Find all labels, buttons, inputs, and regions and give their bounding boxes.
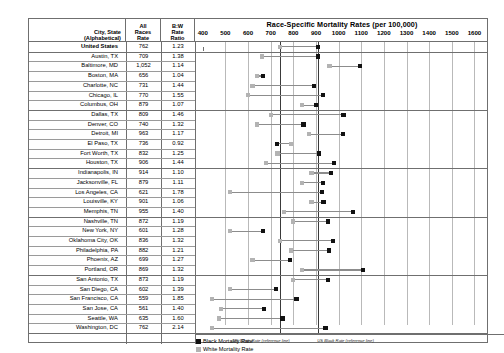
table-row[interactable]: Detroit, MI9631.17: [29, 129, 487, 139]
chart-legend: Black Mortality Rate White Mortality Rat…: [196, 334, 504, 344]
x-tick-label-1400: 1400: [422, 29, 436, 36]
table-row[interactable]: San Jose, CA5611.40: [29, 304, 487, 314]
cell-all-races-rate: 699: [126, 255, 161, 265]
cell-all-races-rate: 914: [126, 168, 161, 178]
table-row[interactable]: Seattle, WA6351.60: [29, 314, 487, 324]
cell-bw-rate-ratio: 1.19: [161, 275, 195, 285]
cell-bw-rate-ratio: 1.38: [161, 52, 195, 62]
table-row[interactable]: San Francisco, CA5591.85: [29, 294, 487, 304]
cell-bw-rate-ratio: 1.11: [161, 178, 195, 188]
table-row[interactable]: San Diego, CA6021.39: [29, 285, 487, 295]
x-tick-label-600: 600: [243, 29, 253, 36]
table-header: City, State (Alphabetical) All Races Rat…: [29, 19, 487, 42]
cell-bw-rate-ratio: 1.46: [161, 110, 195, 120]
cell-all-races-rate: 879: [126, 178, 161, 188]
cell-all-races-rate: 601: [126, 226, 161, 236]
cell-all-races-rate: 635: [126, 314, 161, 324]
cell-bw-rate-ratio: 1.07: [161, 100, 195, 110]
table-row[interactable]: Phoenix, AZ6991.27: [29, 255, 487, 265]
cell-city: San Antonio, TX: [29, 275, 122, 285]
table-row[interactable]: Portland, OR8691.32: [29, 265, 487, 275]
table-row[interactable]: Oklahoma City, OK8361.32: [29, 236, 487, 246]
cell-bw-rate-ratio: 1.17: [161, 129, 195, 139]
column-header-city-line2: (Alphabetical): [84, 35, 121, 41]
x-tick-label-1000: 1000: [332, 29, 346, 36]
table-row[interactable]: Nashville, TN8721.19: [29, 217, 487, 227]
cell-city: El Paso, TX: [29, 139, 122, 149]
cell-city: United States: [29, 42, 122, 52]
cell-all-races-rate: 901: [126, 197, 161, 207]
table-row[interactable]: United States7621.23: [29, 42, 487, 52]
cell-city: Indianapolis, IN: [29, 168, 122, 178]
cell-all-races-rate: 770: [126, 91, 161, 101]
table-row[interactable]: Charlotte, NC7311.44: [29, 81, 487, 91]
cell-city: Denver, CO: [29, 120, 122, 130]
table-row[interactable]: Boston, MA6561.04: [29, 71, 487, 81]
table-row[interactable]: Washington, DC7622.14: [29, 323, 487, 333]
cell-bw-rate-ratio: 1.40: [161, 304, 195, 314]
cell-all-races-rate: 602: [126, 285, 161, 295]
table-row[interactable]: Indianapolis, IN9141.10: [29, 168, 487, 178]
cell-city: San Francisco, CA: [29, 294, 122, 304]
table-row[interactable]: Dallas, TX8091.46: [29, 110, 487, 120]
cell-city: Detroit, MI: [29, 129, 122, 139]
table-row[interactable]: Memphis, TN9551.40: [29, 207, 487, 217]
table-row[interactable]: El Paso, TX7360.92: [29, 139, 487, 149]
table-row[interactable]: Austin, TX7091.38: [29, 52, 487, 62]
cell-bw-rate-ratio: 1.06: [161, 197, 195, 207]
cell-city: Phoenix, AZ: [29, 255, 122, 265]
legend-divider: [196, 334, 504, 335]
legend-swatch-black: [196, 339, 201, 344]
cell-all-races-rate: 832: [126, 149, 161, 159]
cell-bw-rate-ratio: 1.14: [161, 61, 195, 71]
cell-city: Baltimore, MD: [29, 61, 122, 71]
cell-all-races-rate: 656: [126, 71, 161, 81]
cell-bw-rate-ratio: 1.78: [161, 188, 195, 198]
cell-all-races-rate: 873: [126, 275, 161, 285]
cell-all-races-rate: 709: [126, 52, 161, 62]
table-row[interactable]: Houston, TX9061.44: [29, 158, 487, 168]
table-row[interactable]: Baltimore, MD1,0521.14: [29, 61, 487, 71]
cell-bw-rate-ratio: 1.44: [161, 158, 195, 168]
cell-bw-rate-ratio: 1.39: [161, 285, 195, 295]
cell-all-races-rate: 731: [126, 81, 161, 91]
cell-bw-rate-ratio: 1.32: [161, 236, 195, 246]
cell-city: Los Angeles, CA: [29, 188, 122, 198]
table-row[interactable]: Los Angeles, CA6211.78: [29, 188, 487, 198]
table-row[interactable]: Philadelphia, PA8821.21: [29, 246, 487, 256]
table-row[interactable]: Louisville, KY9011.06: [29, 197, 487, 207]
column-header-all-line3: Rate: [137, 35, 149, 41]
cell-bw-rate-ratio: 1.10: [161, 168, 195, 178]
x-tick-label-500: 500: [220, 29, 230, 36]
cell-city: San Diego, CA: [29, 285, 122, 295]
cell-all-races-rate: 906: [126, 158, 161, 168]
cell-bw-rate-ratio: 1.44: [161, 81, 195, 91]
x-tick-label-700: 700: [266, 29, 276, 36]
table-row[interactable]: Columbus, OH8791.07: [29, 100, 487, 110]
legend-label-white: White Mortality Rate: [203, 346, 253, 353]
cell-bw-rate-ratio: 1.32: [161, 265, 195, 275]
cell-all-races-rate: 762: [126, 42, 161, 52]
column-header-city: City, State (Alphabetical): [29, 19, 126, 42]
cell-all-races-rate: 1,052: [126, 61, 161, 71]
table-row[interactable]: New York, NY6011.28: [29, 226, 487, 236]
cell-bw-rate-ratio: 1.55: [161, 91, 195, 101]
cell-bw-rate-ratio: 1.27: [161, 255, 195, 265]
table-row[interactable]: San Antonio, TX8731.19: [29, 275, 487, 285]
cell-city: Chicago, IL: [29, 91, 122, 101]
table-row[interactable]: Fort Worth, TX8321.25: [29, 149, 487, 159]
x-axis-tick-labels: 4005006007008009001000110012001300140015…: [195, 29, 489, 37]
table-row[interactable]: Jacksonville, FL8791.11: [29, 178, 487, 188]
cell-city: Charlotte, NC: [29, 81, 122, 91]
cell-all-races-rate: 955: [126, 207, 161, 217]
cell-city: Houston, TX: [29, 158, 122, 168]
cell-city: New York, NY: [29, 226, 122, 236]
cell-city: Oklahoma City, OK: [29, 236, 122, 246]
cell-all-races-rate: 736: [126, 139, 161, 149]
cell-city: Philadelphia, PA: [29, 246, 122, 256]
table-row[interactable]: Chicago, IL7701.55: [29, 91, 487, 101]
x-tick-label-1600: 1600: [468, 29, 482, 36]
cell-bw-rate-ratio: 1.23: [161, 42, 195, 52]
table-row[interactable]: Denver, CO7401.32: [29, 120, 487, 130]
cell-all-races-rate: 872: [126, 217, 161, 227]
